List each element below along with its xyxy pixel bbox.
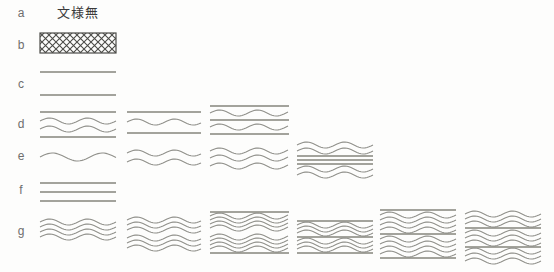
pattern-cell-e4 [297, 142, 373, 178]
pattern-cell-e2 [127, 150, 201, 165]
wave-line [210, 217, 288, 223]
wave-line [297, 222, 373, 228]
row-label-g: g [14, 224, 28, 238]
pattern-cell-g5 [380, 210, 456, 258]
wave-line [210, 238, 288, 244]
pattern-cell-g1 [40, 219, 116, 240]
wave-line [297, 230, 373, 236]
pattern-cell-d2 [127, 112, 201, 133]
wave-line [40, 153, 116, 161]
row-label-e: e [14, 149, 28, 163]
wave-line [297, 238, 373, 244]
wave-line [210, 221, 288, 227]
wave-line [127, 119, 201, 125]
pattern-cell-d1 [40, 112, 116, 137]
row-label-f: f [14, 183, 28, 197]
pattern-cell-g4 [297, 221, 373, 253]
wave-line [297, 242, 373, 248]
wave-line [297, 226, 373, 232]
wave-line [297, 172, 373, 178]
wave-line [210, 155, 288, 161]
row-label-d: d [14, 117, 28, 131]
row-label-a: a [14, 6, 28, 20]
pattern-cell-d3 [210, 106, 289, 134]
wave-line [210, 242, 288, 248]
wave-line [210, 124, 288, 130]
wave-line [40, 118, 116, 124]
wave-line [210, 246, 288, 252]
row-label-c: c [14, 77, 28, 91]
pattern-cell-c1 [40, 72, 116, 95]
pattern-cell-f1 [40, 183, 116, 201]
pattern-figure: a b c d e f g 文様無 [0, 0, 554, 272]
pattern-canvas [0, 0, 554, 272]
wave-line [127, 150, 201, 156]
row-label-b: b [14, 38, 28, 52]
wave-line [127, 159, 201, 165]
pattern-cell-g3 [210, 212, 289, 253]
wave-line [297, 246, 373, 252]
wave-line [210, 148, 288, 154]
wave-line [297, 148, 373, 154]
no-pattern-label: 文様無 [57, 5, 99, 21]
wave-line [210, 225, 288, 231]
wave-line [210, 213, 288, 219]
wave-line [210, 163, 288, 169]
wave-line [210, 110, 288, 116]
wave-line [297, 166, 373, 172]
pattern-cell-e1 [40, 153, 116, 161]
wave-line [297, 142, 373, 148]
pattern-cell-e3 [210, 148, 288, 169]
pattern-cell-b1 [40, 33, 116, 53]
pattern-cell-g2 [127, 217, 201, 251]
pattern-cell-g6 [465, 211, 541, 264]
wave-line [40, 126, 116, 132]
wave-line [210, 234, 288, 240]
